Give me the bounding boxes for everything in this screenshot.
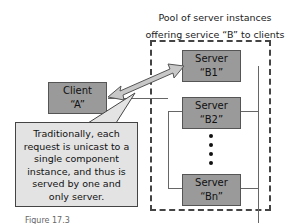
callout-line: single component	[16, 153, 137, 166]
callout-line: only server.	[16, 191, 137, 204]
double-arrow-icon	[108, 64, 184, 100]
callout-line: request is unicast to a	[16, 141, 137, 154]
callout-line: Traditionally, each	[16, 128, 137, 141]
figure-caption: Figure 17.3	[25, 216, 70, 224]
callout-note: Traditionally, each request is unicast t…	[15, 122, 138, 207]
callout-line: instance, and thus is	[16, 166, 137, 179]
callout-line: served by one and	[16, 178, 137, 191]
